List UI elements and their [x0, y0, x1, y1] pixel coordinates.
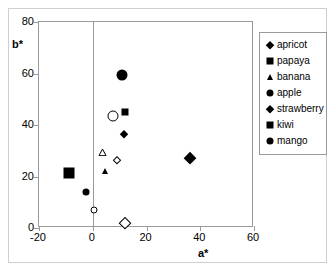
legend-marker-kiwi [264, 118, 277, 132]
y-axis-tick [34, 74, 39, 75]
y-axis-title: b* [12, 38, 23, 50]
data-point-square [267, 58, 274, 65]
legend-label-apple: apple [277, 87, 301, 99]
y-axis-tick-label: 60 [22, 67, 34, 79]
data-point-banana-open [99, 155, 105, 161]
y-axis-tick [34, 177, 39, 178]
data-point-strawberry [183, 152, 195, 164]
y-axis-tick-label: 20 [22, 170, 34, 182]
legend-marker-mango [264, 134, 277, 148]
x-axis-tick-label: 0 [89, 231, 95, 243]
data-point-diamond [266, 41, 274, 49]
y-axis-tick-label: 40 [22, 118, 34, 130]
legend-label-banana: banana [277, 71, 310, 83]
legend-item-banana[interactable]: banana [264, 69, 326, 85]
data-point-mango [117, 69, 128, 80]
data-point-circle [267, 138, 274, 145]
legend-marker-strawberry [264, 102, 277, 116]
legend-label-kiwi: kiwi [277, 119, 294, 131]
legend: apricotpapayabananaapplestrawberrykiwima… [259, 32, 327, 155]
legend-item-apple[interactable]: apple [264, 85, 326, 101]
x-axis-tick-label: 20 [139, 231, 151, 243]
data-point-banana [102, 168, 108, 174]
legend-marker-papaya [264, 54, 277, 68]
y-axis-tick-label: 80 [22, 15, 34, 27]
scatter-plot-figure: 020406080 b* -200204060 a* apricotpapaya… [0, 0, 335, 279]
legend-label-mango: mango [277, 135, 308, 147]
legend-item-papaya[interactable]: papaya [264, 53, 326, 69]
legend-label-apricot: apricot [277, 39, 307, 51]
data-point-circle [267, 90, 274, 97]
legend-label-strawberry: strawberry [277, 103, 324, 115]
legend-item-strawberry[interactable]: strawberry [264, 101, 326, 117]
data-point-diamond [266, 105, 274, 113]
x-axis-tick-label: -20 [30, 231, 46, 243]
data-point-kiwi [63, 167, 74, 178]
legend-item-apricot[interactable]: apricot [264, 37, 326, 53]
data-point-apricot [120, 130, 128, 138]
data-point-papaya [122, 109, 129, 116]
data-point-apple [83, 188, 90, 195]
legend-marker-apple [264, 86, 277, 100]
data-point-triangle [267, 74, 273, 80]
data-point-apple-open-small [91, 206, 98, 213]
legend-item-mango[interactable]: mango [264, 133, 326, 149]
x-axis-title: a* [198, 247, 208, 259]
x-axis-tick-label: 60 [247, 231, 259, 243]
x-zero-line [93, 22, 94, 226]
data-point-square [267, 122, 274, 129]
x-axis-tick-labels: -200204060 [38, 231, 253, 247]
plot-area [38, 21, 253, 227]
y-axis-tick [34, 125, 39, 126]
legend-item-kiwi[interactable]: kiwi [264, 117, 326, 133]
data-point-apricot-open [113, 156, 121, 164]
legend-marker-banana [264, 70, 277, 84]
data-point-apple-open [107, 110, 118, 121]
y-axis-tick-labels: 020406080 [8, 21, 34, 227]
x-axis-tick-label: 40 [193, 231, 205, 243]
legend-marker-apricot [264, 38, 277, 52]
y-axis-tick [34, 22, 39, 23]
legend-label-papaya: papaya [277, 55, 310, 67]
